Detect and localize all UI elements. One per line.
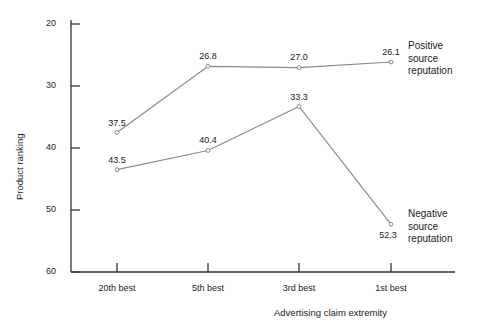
- data-label-positive-1: 37.5: [95, 118, 139, 128]
- y-tick-label-50: 50: [26, 204, 56, 214]
- series-markers-positive: [115, 60, 393, 134]
- x-tick-label-1st-best: 1st best: [356, 283, 426, 293]
- x-tick-label-3rd-best: 3rd best: [264, 283, 334, 293]
- data-label-positive-2: 26.8: [186, 51, 230, 61]
- chart-container: Product ranking Advertising claim extrem…: [0, 0, 477, 333]
- y-tick-label-20: 20: [26, 18, 56, 28]
- series-annotation-negative-line-1: Negative: [408, 208, 452, 221]
- y-axis-title: Product ranking: [14, 133, 25, 200]
- series-annotation-negative-line-2: source: [408, 221, 452, 234]
- series-annotation-negative-line-3: reputation: [408, 233, 452, 246]
- y-tick-label-60: 60: [26, 266, 56, 276]
- x-axis-ticks: [117, 263, 391, 272]
- series-markers-negative: [115, 105, 393, 227]
- data-label-positive-3: 27.0: [277, 52, 321, 62]
- y-tick-label-30: 30: [26, 80, 56, 90]
- x-tick-label-20th-best: 20th best: [82, 283, 152, 293]
- x-axis-title: Advertising claim extremity: [274, 307, 387, 318]
- series-line-negative: [117, 107, 391, 225]
- series-annotation-positive: Positive source reputation: [408, 40, 452, 78]
- series-annotation-positive-line-1: Positive: [408, 40, 452, 53]
- series-annotation-negative: Negative source reputation: [408, 208, 452, 246]
- data-label-negative-4: 52.3: [366, 230, 410, 240]
- y-tick-label-40: 40: [26, 142, 56, 152]
- series-line-positive: [117, 62, 391, 133]
- data-label-negative-2: 40.4: [186, 135, 230, 145]
- data-label-negative-3: 33.3: [277, 92, 321, 102]
- series-annotation-positive-line-2: source: [408, 53, 452, 66]
- x-tick-label-5th-best: 5th best: [173, 283, 243, 293]
- data-label-negative-1: 43.5: [95, 155, 139, 165]
- series-annotation-positive-line-3: reputation: [408, 65, 452, 78]
- y-axis-ticks: [71, 24, 80, 272]
- data-label-positive-4: 26.1: [369, 47, 413, 57]
